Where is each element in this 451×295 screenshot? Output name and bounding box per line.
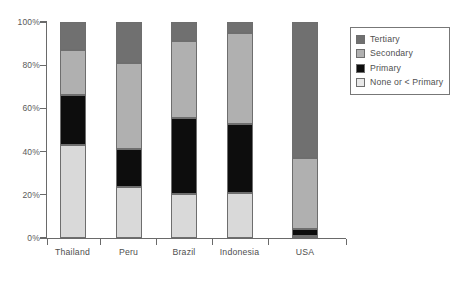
- bar-segment: [116, 22, 142, 63]
- x-axis-label-peru: Peru: [119, 247, 138, 257]
- legend-item: Secondary: [356, 47, 443, 62]
- bar-segment: [171, 41, 197, 118]
- bar-segment: [60, 50, 86, 95]
- legend-label: Secondary: [370, 49, 413, 58]
- legend-item: Tertiary: [356, 32, 443, 47]
- x-axis-label-brazil: Brazil: [173, 247, 196, 257]
- bar-segment: [227, 193, 253, 238]
- y-axis-tick: [40, 108, 47, 109]
- y-axis-tick: [40, 151, 47, 152]
- bar-segment: [116, 149, 142, 187]
- bar-thailand: [60, 22, 86, 238]
- bar-usa: [292, 22, 318, 238]
- bar-segment: [60, 22, 86, 50]
- legend-label: Primary: [370, 64, 401, 73]
- y-axis-line: [46, 21, 47, 239]
- bar-segment: [60, 95, 86, 145]
- y-axis-tick-label: 60%: [0, 103, 40, 113]
- y-axis-tick-label: 0%: [0, 233, 40, 243]
- bar-segment: [171, 22, 197, 41]
- x-axis-tick: [100, 239, 101, 245]
- bar-segment: [171, 118, 197, 194]
- bar-segment: [227, 22, 253, 33]
- bar-indonesia: [227, 22, 253, 238]
- y-axis-tick: [40, 194, 47, 195]
- bar-segment: [227, 33, 253, 124]
- legend-item: None or < Primary: [356, 76, 443, 91]
- y-axis-tick-label: 20%: [0, 190, 40, 200]
- bar-segment: [292, 158, 318, 229]
- x-axis-tick: [212, 239, 213, 245]
- bar-segment: [292, 22, 318, 158]
- chart-legend: TertiarySecondaryPrimaryNone or < Primar…: [350, 27, 450, 95]
- y-axis-tick-label: 40%: [0, 147, 40, 157]
- legend-swatch-icon: [356, 49, 365, 58]
- legend-swatch-icon: [356, 78, 365, 87]
- bar-segment: [116, 63, 142, 149]
- bar-brazil: [171, 22, 197, 238]
- legend-item: Primary: [356, 61, 443, 76]
- x-axis-tick: [156, 239, 157, 245]
- x-axis-tick: [346, 239, 347, 245]
- x-axis-label-thailand: Thailand: [55, 247, 90, 257]
- bar-segment: [292, 229, 318, 235]
- x-axis-tick: [268, 239, 269, 245]
- bar-segment: [292, 236, 318, 238]
- y-axis-tick: [40, 65, 47, 66]
- bar-peru: [116, 22, 142, 238]
- x-axis-label-indonesia: Indonesia: [220, 247, 259, 257]
- stacked-bar-chart: 0%20%40%60%80%100% ThailandPeruBrazilInd…: [0, 0, 451, 295]
- legend-label: None or < Primary: [370, 78, 443, 87]
- y-axis-tick-label: 80%: [0, 60, 40, 70]
- legend-swatch-icon: [356, 64, 365, 73]
- bar-segment: [60, 145, 86, 238]
- legend-swatch-icon: [356, 35, 365, 44]
- bar-segment: [116, 187, 142, 238]
- legend-label: Tertiary: [370, 35, 400, 44]
- y-axis-tick: [40, 21, 47, 22]
- x-axis-label-usa: USA: [296, 247, 314, 257]
- y-axis-tick-label: 100%: [0, 17, 40, 27]
- bar-segment: [171, 194, 197, 238]
- x-axis-tick: [47, 239, 48, 245]
- bar-segment: [227, 124, 253, 193]
